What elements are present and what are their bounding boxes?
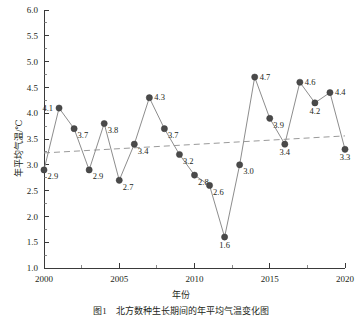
data-point-marker — [131, 141, 137, 147]
data-point-label: 4.1 — [42, 103, 53, 113]
data-point-label: 2.9 — [93, 171, 104, 181]
x-axis-title: 年份 — [0, 288, 362, 301]
data-point-marker — [267, 115, 273, 121]
data-point-label: 4.7 — [260, 72, 271, 82]
data-point-label: 1.6 — [219, 240, 230, 250]
trend-line — [44, 136, 345, 153]
data-point-marker — [116, 177, 122, 183]
x-tick-label: 2015 — [261, 274, 280, 284]
data-point-label: 2.9 — [48, 171, 59, 181]
y-tick-label: 2.5 — [27, 186, 39, 196]
data-point-label: 2.6 — [213, 187, 224, 197]
data-point-label: 3.2 — [183, 156, 194, 166]
x-tick-label: 2010 — [186, 274, 205, 284]
x-tick-label: 2020 — [336, 274, 355, 284]
data-point-marker — [86, 167, 92, 173]
x-tick-label: 2000 — [35, 274, 54, 284]
data-point-marker — [327, 89, 333, 95]
data-point-marker — [297, 79, 303, 85]
y-tick-label: 1.5 — [27, 237, 39, 247]
y-tick-label: 3.0 — [27, 160, 39, 170]
series-line — [44, 77, 345, 237]
y-tick-label: 3.5 — [27, 134, 39, 144]
data-point-label: 3.7 — [168, 130, 179, 140]
data-point-marker — [56, 105, 62, 111]
data-point-marker — [71, 126, 77, 132]
data-point-marker — [41, 167, 47, 173]
y-tick-label: 4.5 — [27, 83, 39, 93]
y-axis-title: 年平均气温/℃ — [12, 119, 25, 177]
x-tick-label: 2005 — [110, 274, 129, 284]
data-point-marker — [191, 172, 197, 178]
figure-caption: 图1 北方数种生长期间的年平均气温变化图 — [0, 304, 362, 317]
data-point-label: 4.6 — [305, 77, 316, 87]
data-point-label: 3.4 — [279, 147, 290, 157]
data-point-label: 3.8 — [108, 125, 119, 135]
y-tick-label: 6.0 — [27, 5, 39, 15]
data-point-label: 3.3 — [340, 152, 351, 162]
data-point-marker — [252, 74, 258, 80]
y-tick-label: 1.0 — [27, 263, 39, 273]
y-tick-label: 5.0 — [27, 57, 39, 67]
data-point-marker — [101, 120, 107, 126]
axis-lines — [44, 10, 345, 268]
y-tick-label: 4.0 — [27, 108, 39, 118]
data-point-label: 4.4 — [335, 87, 346, 97]
data-point-label: 3.7 — [78, 130, 89, 140]
data-point-marker — [161, 126, 167, 132]
data-point-marker — [206, 182, 212, 188]
data-point-label: 3.9 — [273, 120, 284, 130]
y-tick-label: 2.0 — [27, 212, 39, 222]
data-point-label: 3.0 — [243, 166, 254, 176]
data-point-label: 4.2 — [310, 106, 321, 116]
data-point-marker — [176, 151, 182, 157]
data-point-label: 4.3 — [154, 92, 165, 102]
data-point-label: 2.7 — [123, 182, 134, 192]
data-point-marker — [146, 95, 152, 101]
data-point-label: 3.4 — [138, 146, 149, 156]
data-point-marker — [237, 162, 243, 168]
y-tick-label: 5.5 — [27, 31, 39, 41]
